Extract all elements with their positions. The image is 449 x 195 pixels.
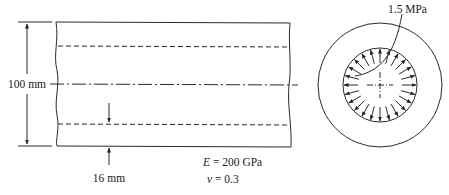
youngs-modulus-value: = 200 GPa [210, 156, 262, 168]
pressure-arrow [391, 54, 398, 66]
pressure-arrow [401, 76, 415, 80]
pressure-arrow [371, 50, 375, 64]
pressure-arrow [371, 106, 375, 120]
poisson-ratio-value: = 0.3 [212, 173, 239, 185]
pressure-arrow [399, 67, 411, 74]
pressure-vessel-diagram: 100 mm 16 mm E = 200 GPa ν = 0.3 1.5 MPa [0, 0, 449, 195]
inner-wall-top-hidden [58, 46, 289, 47]
youngs-modulus-symbol: E [202, 156, 210, 168]
pressure-arrow [401, 91, 415, 95]
pressure-arrow [399, 96, 411, 103]
thickness-dimension-label: 16 mm [93, 172, 125, 184]
centerline [50, 84, 298, 85]
pressure-arrow [349, 67, 361, 74]
pressure-arrow [396, 101, 406, 111]
pressure-arrow [355, 60, 365, 70]
poisson-ratio-label: ν = 0.3 [207, 173, 239, 185]
pressure-arrow [396, 60, 406, 70]
pressure-arrow [349, 96, 361, 103]
youngs-modulus-label: E = 200 GPa [202, 156, 262, 168]
inner-wall-bottom-hidden [58, 124, 289, 125]
pressure-arrow [391, 104, 398, 116]
pressure-arrow [345, 76, 359, 80]
cross-section [318, 14, 442, 147]
outer-wall-bottom [57, 146, 291, 147]
pressure-arrow [362, 54, 369, 66]
pressure-arrow [355, 101, 365, 111]
pressure-label: 1.5 MPa [388, 3, 427, 15]
height-dimension-label: 100 mm [8, 78, 46, 90]
outer-wall-top [56, 22, 290, 23]
side-view [18, 22, 298, 165]
pressure-arrow [362, 104, 369, 116]
pressure-arrow [386, 106, 390, 120]
pressure-arrow [345, 91, 359, 95]
